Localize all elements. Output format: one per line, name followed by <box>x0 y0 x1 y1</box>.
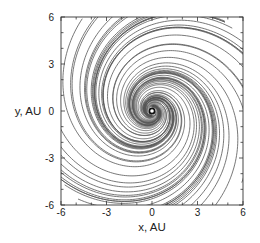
y-tick-label: 0 <box>48 106 54 117</box>
x-axis-title: x, AU <box>138 221 165 233</box>
spiral-chart: -6-3036 -6-3036 x, AU y, AU <box>0 0 260 243</box>
y-tick-label: -3 <box>45 153 54 164</box>
y-tick-label: -6 <box>45 200 54 211</box>
x-tick-label: -3 <box>102 207 111 218</box>
x-tick-labels: -6-3036 <box>57 207 247 218</box>
y-tick-label: 6 <box>48 12 54 23</box>
x-tick-label: 3 <box>195 207 201 218</box>
y-axis-title: y, AU <box>15 105 42 117</box>
x-tick-label: 6 <box>240 207 246 218</box>
x-tick-label: 0 <box>149 207 155 218</box>
y-tick-labels: -6-3036 <box>45 12 54 211</box>
spiral-streamlines <box>39 0 260 228</box>
y-tick-label: 3 <box>48 59 54 70</box>
x-tick-label: -6 <box>57 207 66 218</box>
central-star-marker <box>148 107 155 114</box>
